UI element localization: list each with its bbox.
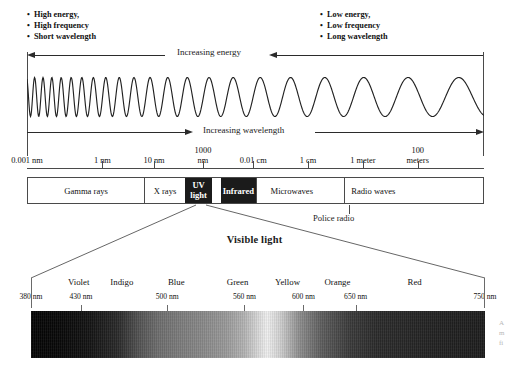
page-edge-text: Amfi: [499, 318, 504, 348]
visible-nm-tick-5: [356, 305, 357, 311]
energy-arrow-line-right: [277, 55, 483, 56]
bullet-low-frequency: Low frequency: [320, 20, 388, 31]
wavelength-arrow-line-left: [27, 132, 185, 133]
increasing-wavelength-arrow-row: Increasing wavelength: [27, 126, 484, 140]
visible-spectrum-gradient: [31, 311, 485, 358]
visible-nm-label-5: 650 nm: [331, 292, 381, 301]
energy-arrow-line-left: [35, 55, 165, 56]
visible-nm-label-2: 500 nm: [142, 292, 192, 301]
edge-text-line: fi: [499, 338, 504, 348]
color-name-blue: Blue: [146, 277, 206, 287]
scale-label-line1: 1000: [163, 146, 243, 156]
gradient-texture: [31, 311, 485, 358]
edge-text-line: m: [499, 328, 504, 338]
visible-wavelength-labels: 380 nm430 nm500 nm560 nm600 nm650 nm750 …: [0, 292, 509, 306]
visible-nm-tick-4: [303, 305, 304, 311]
scale-tick-7: [418, 161, 419, 168]
band-label: Infrared: [223, 186, 254, 196]
increasing-energy-label: Increasing energy: [173, 48, 245, 57]
edge-text-line: A: [499, 318, 504, 328]
visible-nm-tick-1: [81, 305, 82, 311]
scale-tick-6: [363, 161, 364, 168]
band-label: Microwaves: [271, 186, 313, 196]
low-energy-bullet-list: Low energy, Low frequency Long wavelengt…: [320, 9, 388, 43]
bullet-low-energy: Low energy,: [320, 9, 388, 20]
visible-light-title: Visible light: [0, 234, 509, 245]
wavelength-scale-labels: 0.001 nm1 nm10 nm1000nm0.01 cm1 cm1 mete…: [27, 143, 484, 168]
visible-range-cap-left: [31, 278, 32, 308]
bullet-long-wavelength: Long wavelength: [320, 31, 388, 42]
scale-tick-4: [253, 161, 254, 168]
visible-nm-label-1: 430 nm: [56, 292, 106, 301]
visible-nm-tick-2: [167, 305, 168, 311]
scale-tick-1: [102, 161, 103, 168]
increasing-energy-arrow-row: Increasing energy: [27, 48, 483, 64]
arrow-left-icon: [27, 52, 35, 58]
band-label: X rays: [154, 186, 177, 196]
increasing-wavelength-label: Increasing wavelength: [199, 126, 288, 135]
color-name-orange: Orange: [307, 277, 367, 287]
scale-label-0: 0.001 nm: [0, 156, 67, 166]
wavelength-arrow-line-right: [315, 132, 476, 133]
visible-nm-label-4: 600 nm: [278, 292, 328, 301]
sine-wave-icon: [27, 72, 484, 122]
scale-tick-2: [154, 161, 155, 168]
band-label-line2: light: [190, 191, 207, 200]
scale-label-line1: 100: [378, 146, 458, 156]
band-label: UVlight: [190, 181, 207, 199]
arrow-left-mid-icon: [269, 52, 277, 58]
color-name-indigo: Indigo: [92, 277, 152, 287]
visible-nm-tick-3: [244, 305, 245, 311]
scale-tick-3: [203, 161, 204, 168]
bullet-high-frequency: High frequency: [27, 20, 96, 31]
arrow-right-mid-icon: [185, 129, 193, 135]
figure-canvas: High energy, High frequency Short wavele…: [0, 0, 509, 377]
visible-color-names: VioletIndigoBlueGreenYellowOrangeRed: [0, 277, 509, 291]
scale-tick-5: [308, 161, 309, 168]
color-name-red: Red: [385, 277, 445, 287]
wave-illustration: [27, 72, 484, 122]
scale-baseline: [27, 168, 484, 169]
visible-range-cap-right: [484, 278, 485, 308]
bullet-short-wavelength: Short wavelength: [27, 31, 96, 42]
high-energy-bullet-list: High energy, High frequency Short wavele…: [27, 9, 96, 43]
bullet-high-energy: High energy,: [27, 9, 96, 20]
visible-nm-label-3: 560 nm: [219, 292, 269, 301]
band-label: Radio waves: [351, 186, 395, 196]
arrow-right-icon: [476, 129, 484, 135]
band-label: Gamma rays: [64, 186, 108, 196]
